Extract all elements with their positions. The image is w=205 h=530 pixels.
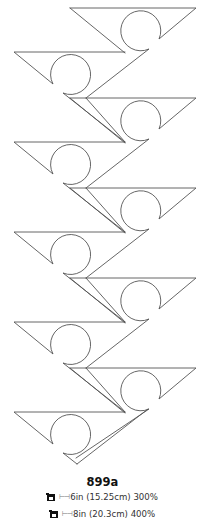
size-option-row: ⊢⊣ 6in (15.25cm) 300% — [0, 492, 205, 502]
unit-connector-edge — [86, 98, 125, 142]
unit-left-edge — [70, 8, 125, 53]
left-pointing-unit — [14, 412, 125, 464]
left-pointing-unit — [14, 52, 125, 142]
unit-connector-edge — [86, 188, 125, 232]
hoop-icon — [50, 511, 58, 518]
left-pointing-unit — [14, 322, 125, 412]
left-pointing-unit — [14, 142, 125, 232]
size-option-row: ⊢⊣ 8in (20.3cm) 400% — [0, 509, 205, 519]
closing-edge — [77, 409, 148, 464]
size-option-label: 8in (20.3cm) 400% — [73, 509, 155, 519]
unit-connector-edge — [86, 368, 125, 412]
right-pointing-unit — [70, 8, 196, 98]
right-pointing-unit — [70, 278, 196, 368]
right-pointing-unit — [70, 368, 196, 458]
embroidery-design-outline — [0, 0, 205, 475]
pattern-units — [14, 8, 196, 464]
left-pointing-unit — [14, 232, 125, 322]
right-pointing-unit — [70, 98, 196, 188]
size-option-label: 6in (15.25cm) 300% — [70, 492, 158, 502]
width-arrow-icon: ⊢⊣ — [62, 510, 72, 518]
width-arrow-icon: ⊢⊣ — [59, 493, 69, 501]
hoop-icon — [47, 494, 55, 501]
right-pointing-unit — [70, 188, 196, 278]
unit-connector-edge — [86, 278, 125, 322]
design-code: 899a — [0, 475, 205, 489]
